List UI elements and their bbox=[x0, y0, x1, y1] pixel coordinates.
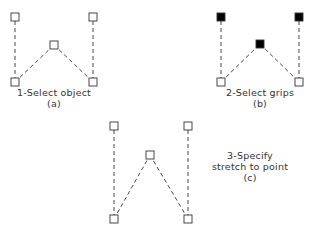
grip-icon bbox=[11, 13, 19, 21]
grip-icon bbox=[50, 41, 58, 49]
hot-grip-icon bbox=[217, 13, 225, 21]
grip-icon bbox=[11, 78, 19, 86]
grip-stretch-diagram bbox=[0, 0, 309, 236]
caption-c-line1: 3-Specify bbox=[200, 150, 300, 161]
caption-c: 3-Specify stretch to point (c) bbox=[200, 150, 300, 183]
grip-icon bbox=[110, 215, 118, 223]
caption-b: 2-Select grips (b) bbox=[210, 87, 309, 109]
grip-icon bbox=[295, 78, 303, 86]
grip-icon bbox=[184, 215, 192, 223]
caption-c-line2: stretch to point bbox=[200, 161, 300, 172]
caption-c-sub: (c) bbox=[200, 172, 300, 183]
caption-a-label: 1-Select object bbox=[4, 87, 104, 98]
hot-grip-icon bbox=[295, 13, 303, 21]
hot-grip-icon bbox=[256, 40, 264, 48]
grip-icon bbox=[184, 122, 192, 130]
grip-icon bbox=[146, 151, 154, 159]
grip-icon bbox=[89, 78, 97, 86]
caption-a-sub: (a) bbox=[4, 98, 104, 109]
caption-b-sub: (b) bbox=[210, 98, 309, 109]
polyline-a bbox=[15, 21, 93, 82]
caption-b-label: 2-Select grips bbox=[210, 87, 309, 98]
grip-icon bbox=[89, 13, 97, 21]
grip-icon bbox=[217, 78, 225, 86]
polyline-b bbox=[221, 21, 299, 82]
grip-icon bbox=[110, 122, 118, 130]
caption-a: 1-Select object (a) bbox=[4, 87, 104, 109]
polyline-c bbox=[114, 130, 188, 219]
